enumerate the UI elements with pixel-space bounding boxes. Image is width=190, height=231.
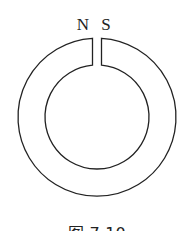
south-pole-label: S (101, 15, 110, 34)
figure-caption: 图 7-10 (68, 224, 125, 231)
ring-magnet-body (18, 38, 176, 196)
ring-magnet-diagram: N S 图 7-10 (0, 0, 190, 231)
north-pole-label: N (77, 15, 89, 34)
